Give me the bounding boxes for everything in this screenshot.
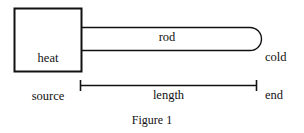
heat-source-label-line-1: heat <box>14 52 82 65</box>
figure-container: heat source rod cold end length Figure 1 <box>0 0 304 133</box>
cold-end-label-line-2: end <box>265 89 303 102</box>
cold-end-label-line-1: cold <box>265 51 303 64</box>
length-dimension-label: length <box>80 89 257 102</box>
figure-caption: Figure 1 <box>0 114 304 126</box>
heat-source-label: heat source <box>14 26 82 128</box>
cold-end-label: cold end <box>265 25 303 127</box>
heat-source-label-line-2: source <box>14 90 82 103</box>
rod-label: rod <box>82 31 252 44</box>
